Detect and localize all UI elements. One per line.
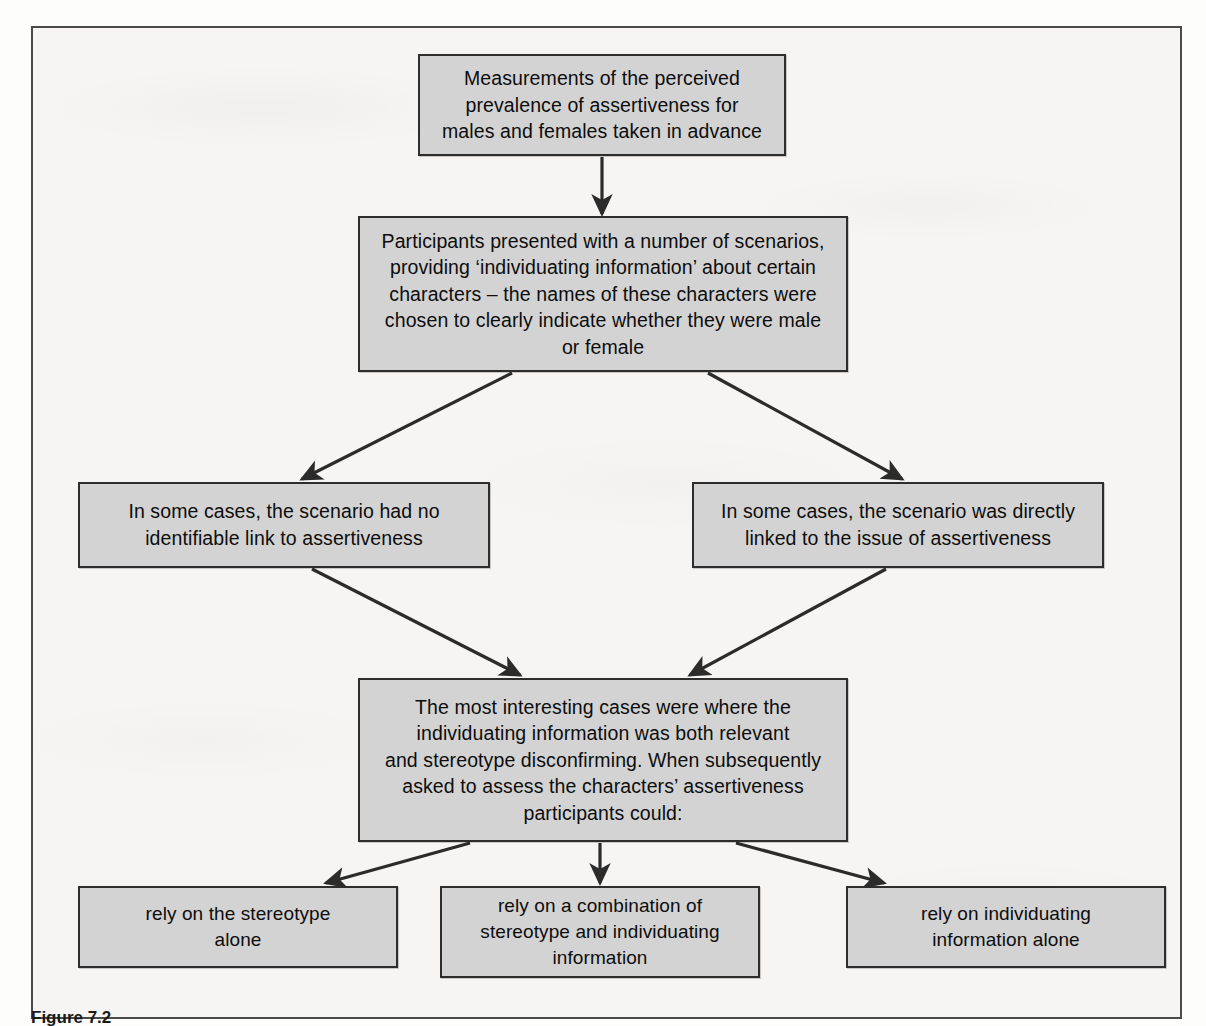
flow-box-no-identifiable-link: In some cases, the scenario had no ident… xyxy=(78,482,490,568)
flow-box-premeasurement: Measurements of the perceived prevalence… xyxy=(418,54,786,156)
flow-box-rely-individuating-alone-label: rely on individuating information alone xyxy=(856,901,1156,953)
flow-box-scenarios: Participants presented with a number of … xyxy=(358,216,848,372)
page-background: Measurements of the perceived prevalence… xyxy=(0,0,1206,1026)
flow-box-rely-combination: rely on a combination of stereotype and … xyxy=(440,886,760,978)
flow-box-rely-combination-label: rely on a combination of stereotype and … xyxy=(450,893,750,970)
flow-box-scenarios-label: Participants presented with a number of … xyxy=(368,228,838,361)
flow-box-most-interesting-cases-label: The most interesting cases were where th… xyxy=(368,694,838,827)
flow-box-directly-linked: In some cases, the scenario was directly… xyxy=(692,482,1104,568)
figure-caption: Figure 7.2 xyxy=(31,1008,731,1026)
flow-box-most-interesting-cases: The most interesting cases were where th… xyxy=(358,678,848,842)
flow-box-no-identifiable-link-label: In some cases, the scenario had no ident… xyxy=(88,498,480,551)
flow-box-premeasurement-label: Measurements of the perceived prevalence… xyxy=(428,65,776,145)
figure-caption-label: Figure 7.2 xyxy=(31,1008,111,1026)
flow-box-rely-individuating-alone: rely on individuating information alone xyxy=(846,886,1166,968)
flow-box-rely-stereotype-alone: rely on the stereotype alone xyxy=(78,886,398,968)
flow-box-rely-stereotype-alone-label: rely on the stereotype alone xyxy=(88,901,388,953)
flow-box-directly-linked-label: In some cases, the scenario was directly… xyxy=(702,498,1094,551)
